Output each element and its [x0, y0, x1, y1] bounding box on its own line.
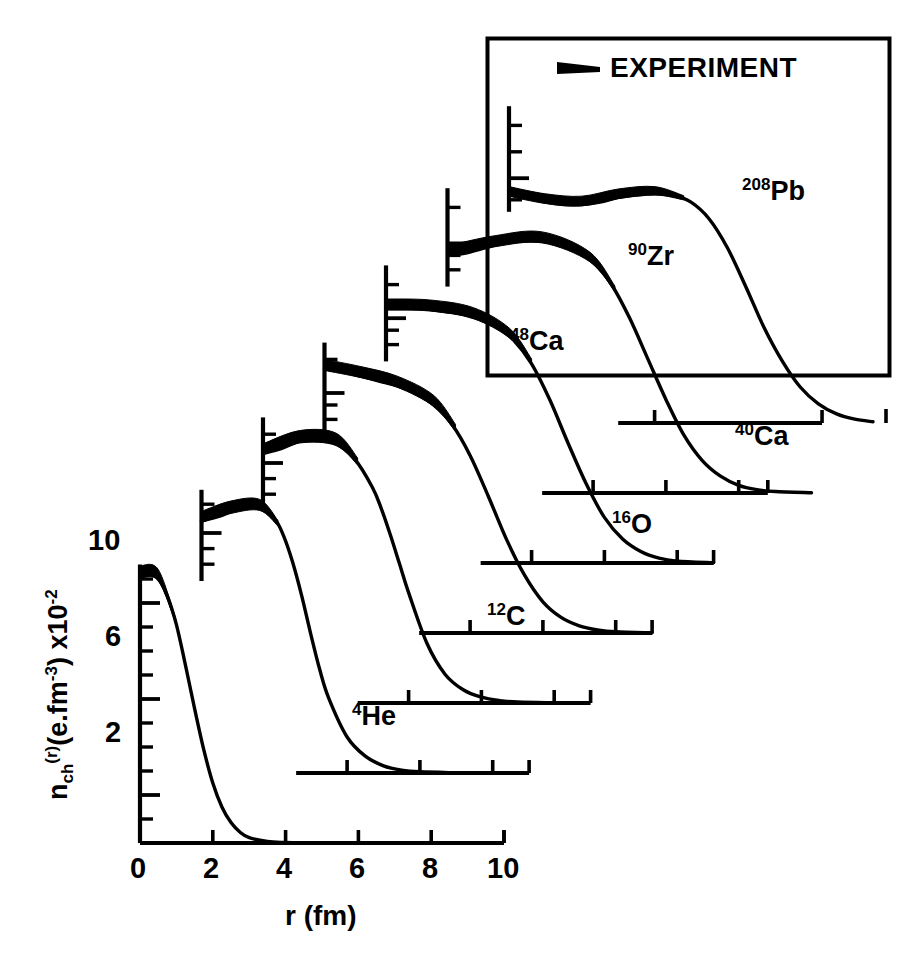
experiment-band-zr-90	[448, 231, 615, 292]
mass-number: 40	[735, 420, 754, 439]
experiment-band-o-16	[263, 429, 358, 465]
curve-zr-90	[448, 241, 812, 493]
element-symbol: Ca	[529, 326, 564, 356]
curve-label-ca-40: 40Ca	[735, 420, 788, 452]
experiment-band-c-12	[202, 498, 278, 526]
x-tick-label-10: 10	[487, 852, 519, 885]
y-tick-label-10: 10	[88, 524, 120, 557]
element-symbol: Ca	[754, 421, 789, 451]
y-title-sub: ch	[58, 764, 77, 784]
curve-c-12	[202, 506, 457, 773]
x-axis-title: r (fm)	[285, 900, 357, 932]
mass-number: 16	[612, 508, 631, 527]
y-title-tail-exp: -2	[42, 589, 61, 604]
element-symbol: Pb	[770, 176, 805, 206]
legend-marker-band	[557, 62, 600, 74]
x-tick-label-4: 4	[276, 852, 292, 885]
mass-number: 90	[628, 240, 647, 259]
y-title-n: n	[43, 784, 73, 801]
curve-ca-40	[325, 369, 653, 633]
curve-pb-208	[509, 194, 873, 422]
y-tick-label-6: 6	[105, 620, 121, 653]
curve-label-zr-90: 90Zr	[628, 240, 674, 272]
y-tick-label-2: 2	[105, 716, 121, 749]
element-symbol: C	[506, 601, 526, 631]
y-title-units: (e.fm	[43, 681, 73, 746]
chart-canvas	[0, 0, 907, 957]
x-tick-label-0: 0	[130, 852, 146, 885]
mass-number: 208	[742, 175, 770, 194]
experiment-band-ca-40	[325, 359, 456, 431]
element-symbol: He	[361, 701, 396, 731]
experiment-band-he-4	[140, 564, 176, 625]
curve-o-16	[263, 439, 554, 703]
mass-number: 12	[487, 600, 506, 619]
x-tick-label-6: 6	[349, 852, 365, 885]
curve-label-o-16: 16O	[612, 508, 652, 540]
curve-label-ca-48: 48Ca	[510, 325, 563, 357]
curve-he-4	[140, 574, 322, 843]
element-symbol: Zr	[647, 241, 674, 271]
y-title-sup: (r)	[42, 746, 61, 764]
element-symbol: O	[631, 509, 652, 539]
legend-label-experiment: EXPERIMENT	[610, 52, 797, 84]
figure-root: 10 6 2 0 2 4 6 8 10 r (fm) nch(r)(e.fm-3…	[0, 0, 907, 957]
x-tick-label-8: 8	[422, 852, 438, 885]
y-axis-title: nch(r)(e.fm-3) x10-2	[42, 589, 78, 800]
curve-label-c-12: 12C	[487, 600, 525, 632]
y-title-units-exp: -3	[42, 666, 61, 681]
mass-number: 48	[510, 325, 529, 344]
x-tick-label-2: 2	[203, 852, 219, 885]
curve-label-he-4: 4He	[352, 700, 396, 732]
experiment-band-pb-208	[509, 186, 684, 206]
curve-label-pb-208: 208Pb	[742, 175, 805, 207]
y-title-tail: ) x10	[43, 605, 73, 667]
